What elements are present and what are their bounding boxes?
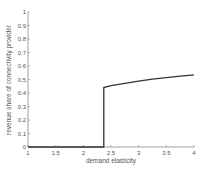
- y-tick-label: 0.5: [18, 77, 27, 83]
- y-tick-label: 1: [23, 9, 27, 15]
- y-axis-label: revenue share of connectivity provider: [5, 24, 13, 135]
- x-tick-label: 3.5: [162, 150, 171, 156]
- x-tick-label: 1.5: [51, 150, 60, 156]
- x-tick-label: 2.5: [107, 150, 116, 156]
- x-tick-label: 2: [82, 150, 86, 156]
- x-tick-label: 1: [26, 150, 30, 156]
- y-tick-label: 0.1: [18, 131, 27, 137]
- y-tick-label: 0.6: [18, 63, 27, 69]
- x-tick-label: 4: [192, 150, 196, 156]
- y-tick-label: 0.3: [18, 104, 27, 110]
- line-chart: 00.10.20.30.40.50.60.70.80.91 11.522.533…: [0, 0, 206, 171]
- x-tick-label: 3: [137, 150, 141, 156]
- y-tick-label: 0.7: [18, 50, 27, 56]
- y-tick-label: 0.8: [18, 36, 27, 42]
- y-tick-label: 0.9: [18, 23, 27, 29]
- y-tick-label: 0.4: [18, 90, 27, 96]
- x-axis-label: demand elasticity: [86, 157, 137, 165]
- revenue-share-line: [28, 75, 194, 147]
- y-tick-label: 0.2: [18, 117, 27, 123]
